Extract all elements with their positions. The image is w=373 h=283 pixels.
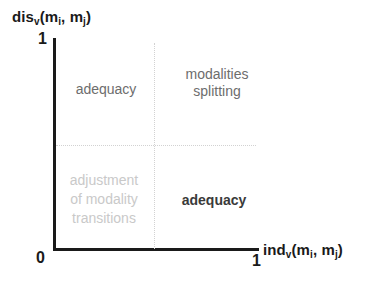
y-axis-label-subscript-j: j: [83, 16, 86, 27]
quadrant-diagram: disv(mi, mj) indv(mi, mj) 1 1 0 adequacy…: [0, 0, 373, 283]
x-axis-label-prefix: ind: [263, 241, 286, 258]
x-axis-label-subscript-v: v: [286, 249, 292, 260]
x-axis-line: [53, 248, 259, 251]
y-axis-label-prefix: dis: [12, 8, 34, 25]
x-axis-label: indv(mi, mj): [263, 241, 343, 258]
y-axis-tick-max: 1: [38, 31, 47, 47]
y-axis-label-subscript-i: i: [58, 16, 61, 27]
horizontal-gridline: [56, 145, 256, 146]
y-axis-label-open-paren: (m: [40, 8, 59, 25]
x-axis-label-open-paren: (m: [291, 241, 310, 258]
y-axis-label-subscript-v: v: [34, 16, 40, 27]
x-axis-label-subscript-j: j: [335, 249, 338, 260]
x-axis-label-subscript-i: i: [310, 249, 313, 260]
x-axis-label-close-paren: ): [338, 241, 343, 258]
y-axis-label-comma: , m: [61, 8, 83, 25]
y-axis-label: disv(mi, mj): [12, 8, 91, 25]
x-axis-tick-max: 1: [252, 253, 261, 269]
x-axis-label-comma: , m: [313, 241, 335, 258]
quadrant-label-top-left: adequacy: [60, 81, 152, 98]
quadrant-label-bottom-left: adjustment of modality transitions: [52, 171, 156, 228]
origin-tick: 0: [36, 250, 45, 266]
quadrant-label-bottom-right: adequacy: [162, 192, 266, 209]
y-axis-label-close-paren: ): [86, 8, 91, 25]
quadrant-label-top-right: modalities splitting: [164, 66, 270, 100]
